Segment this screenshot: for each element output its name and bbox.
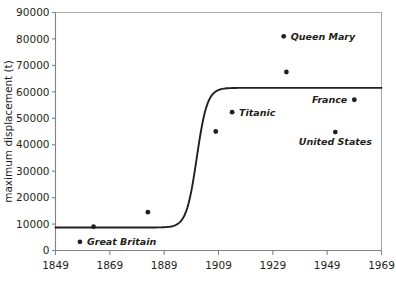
data-point: [281, 34, 286, 39]
data-point-label: France: [312, 94, 348, 105]
y-tick-label: 80000: [16, 33, 49, 45]
y-tick-label: 20000: [16, 191, 49, 203]
y-tick-label: 90000: [16, 6, 49, 18]
y-tick-label: 60000: [16, 86, 49, 98]
fit-curve: [56, 88, 382, 228]
chart-figure: 0100002000030000400005000060000700008000…: [0, 0, 396, 283]
y-tick-label: 40000: [16, 138, 49, 150]
data-point: [78, 239, 83, 244]
x-tick-label: 1889: [151, 259, 178, 271]
data-point-label: Titanic: [239, 107, 276, 118]
x-tick-label: 1869: [96, 259, 123, 271]
data-point: [230, 110, 235, 115]
y-tick-label: 0: [43, 244, 50, 256]
plot-frame: [56, 13, 382, 251]
y-tick-label: 50000: [16, 112, 49, 124]
x-tick-label: 1949: [314, 259, 341, 271]
data-point: [91, 224, 96, 229]
x-tick-label: 1849: [42, 259, 69, 271]
y-tick-label: 30000: [16, 165, 49, 177]
x-tick-label: 1909: [205, 259, 232, 271]
data-point: [352, 97, 357, 102]
data-point-label: Queen Mary: [291, 31, 356, 42]
data-point: [333, 130, 338, 135]
data-point: [213, 129, 218, 134]
y-tick-label: 70000: [16, 59, 49, 71]
data-point-label: Great Britain: [87, 236, 157, 247]
y-tick-label: 10000: [16, 218, 49, 230]
data-point: [284, 70, 289, 75]
y-axis-title: maximum displacement (t): [2, 60, 14, 203]
displacement-scatter-chart: 0100002000030000400005000060000700008000…: [0, 0, 396, 283]
data-point: [145, 210, 150, 215]
x-tick-label: 1969: [368, 259, 395, 271]
data-point-label: United States: [299, 136, 373, 147]
plot-axes: [56, 13, 382, 251]
x-tick-label: 1929: [259, 259, 286, 271]
